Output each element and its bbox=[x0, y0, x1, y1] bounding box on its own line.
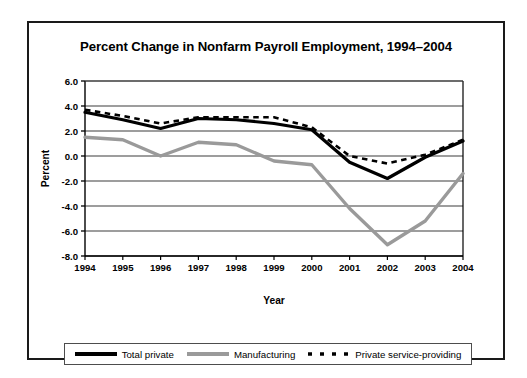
y-axis-tick-label: 6.0 bbox=[65, 76, 78, 87]
y-axis-tick-label: -2.0 bbox=[61, 176, 78, 187]
legend-swatch-solid-black-line bbox=[75, 349, 117, 359]
x-axis-tick-label: 1995 bbox=[112, 262, 134, 273]
x-axis-tick-label: 1994 bbox=[74, 262, 96, 273]
legend-item-label: Private service-providing bbox=[355, 349, 461, 360]
series-line bbox=[85, 112, 463, 178]
series-line bbox=[85, 137, 463, 245]
y-axis-tick-label: 4.0 bbox=[65, 101, 78, 112]
legend-item-label: Total private bbox=[122, 349, 174, 360]
x-axis-tick-label: 2001 bbox=[339, 262, 361, 273]
x-axis-title: Year bbox=[263, 295, 285, 306]
legend-item[interactable]: Manufacturing bbox=[187, 349, 295, 360]
series-line bbox=[85, 110, 463, 164]
x-axis-tick-label: 1998 bbox=[226, 262, 248, 273]
x-axis-tick-label: 1997 bbox=[188, 262, 209, 273]
y-axis-tick-label: -4.0 bbox=[61, 201, 78, 212]
y-axis-tick-label: -6.0 bbox=[61, 226, 78, 237]
y-axis-tick-label: 2.0 bbox=[65, 126, 78, 137]
x-axis-tick-label: 2003 bbox=[415, 262, 436, 273]
legend-item[interactable]: Total private bbox=[75, 349, 174, 360]
y-axis-tick-label: -8.0 bbox=[61, 251, 78, 262]
chart-legend: Total privateManufacturingPrivate servic… bbox=[64, 343, 472, 365]
y-axis-tick-label: 0.0 bbox=[65, 151, 78, 162]
legend-swatch-dashed-black-line bbox=[308, 349, 350, 359]
x-axis-tick-label: 2000 bbox=[301, 262, 322, 273]
x-axis-tick-label: 2002 bbox=[377, 262, 398, 273]
x-axis-tick-label: 2004 bbox=[452, 262, 474, 273]
chart-figure-frame: Percent Change in Nonfarm Payroll Employ… bbox=[27, 21, 505, 360]
x-axis-tick-label: 1996 bbox=[150, 262, 171, 273]
legend-swatch-solid-gray-line bbox=[187, 349, 229, 359]
x-axis-tick-label: 1999 bbox=[263, 262, 284, 273]
legend-item-label: Manufacturing bbox=[234, 349, 295, 360]
chart-plot-area: 6.04.02.00.0-2.0-4.0-6.0-8.0199419951996… bbox=[29, 23, 503, 358]
legend-item[interactable]: Private service-providing bbox=[308, 349, 461, 360]
y-axis-title: Percent bbox=[40, 149, 51, 187]
